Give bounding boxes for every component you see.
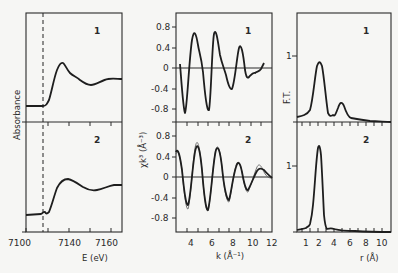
panel-label-2: 2 <box>94 135 100 145</box>
svg-text:0.8: 0.8 <box>156 22 171 32</box>
ft-curve-2 <box>297 146 391 232</box>
svg-text:0.4: 0.4 <box>156 43 171 53</box>
ft-ylabel: F.T. <box>282 91 292 104</box>
ft-tick-1: 1 <box>303 238 309 248</box>
panel-label-1: 1 <box>94 26 100 36</box>
ft-tick-6: 6 <box>347 238 353 248</box>
ft-chart: 1 1 1 2 1 2 4 6 8 10 r (Å) F.T. <box>282 13 391 263</box>
xanes-bottom-ticks <box>22 228 111 232</box>
xanes-tick-7100: 7100 <box>8 238 31 248</box>
ft-ytick-label-1: 1 <box>286 161 292 171</box>
xanes-xlabel: E (eV) <box>82 253 108 263</box>
ft-ytick-label-1: 1 <box>286 51 292 61</box>
xanes-tick-7160: 7160 <box>95 238 118 248</box>
svg-text:-0.4: -0.4 <box>151 84 169 94</box>
panel-label-1: 1 <box>363 26 369 36</box>
exafs-xlabel: k (Å⁻¹) <box>216 250 244 261</box>
ft-tick-10: 10 <box>376 238 388 248</box>
ft-tick-4: 4 <box>331 238 337 248</box>
exafs-curve-2 <box>176 146 272 210</box>
exafs-curve-1 <box>180 32 264 113</box>
svg-text:0: 0 <box>163 63 169 73</box>
figure: 1 2 7100 7140 7160 E (eV) Absorbance <box>0 0 398 273</box>
exafs-tick-4: 4 <box>188 238 194 248</box>
svg-text:0: 0 <box>163 172 169 182</box>
svg-text:0.8: 0.8 <box>156 131 171 141</box>
exafs-ylabel: χk³ (Å⁻³) <box>137 132 148 168</box>
ft-tick-2: 2 <box>316 238 322 248</box>
exafs-tick-12: 12 <box>266 238 277 248</box>
xanes-chart: 1 2 7100 7140 7160 E (eV) Absorbance <box>8 13 122 263</box>
ft-xlabel: r (Å) <box>360 252 379 263</box>
svg-text:-0.8: -0.8 <box>151 213 169 223</box>
panel-label-2: 2 <box>245 135 251 145</box>
svg-text:0.4: 0.4 <box>156 152 171 162</box>
panel-label-2: 2 <box>363 135 369 145</box>
exafs-tick-8: 8 <box>230 238 236 248</box>
exafs-tick-10: 10 <box>247 238 259 248</box>
svg-text:-0.4: -0.4 <box>151 193 169 203</box>
exafs-chart: 0.8 0.4 0 -0.4 -0.8 0.8 0.4 0 -0.4 -0.8 … <box>137 13 277 261</box>
ft-tick-8: 8 <box>363 238 369 248</box>
exafs-ytick-labels: 0.8 0.4 0 -0.4 -0.8 0.8 0.4 0 -0.4 -0.8 <box>151 22 171 223</box>
xanes-curve-1 <box>26 63 122 106</box>
panel-label-1: 1 <box>245 26 251 36</box>
exafs-tick-6: 6 <box>209 238 215 248</box>
xanes-ylabel: Absorbance <box>12 90 22 140</box>
xanes-curve-2 <box>26 179 122 215</box>
ft-curve-1 <box>297 62 391 122</box>
xanes-tick-7140: 7140 <box>58 238 81 248</box>
ft-xticks <box>302 122 382 232</box>
xanes-mid-ticks <box>48 122 111 126</box>
svg-text:-0.8: -0.8 <box>151 104 169 114</box>
